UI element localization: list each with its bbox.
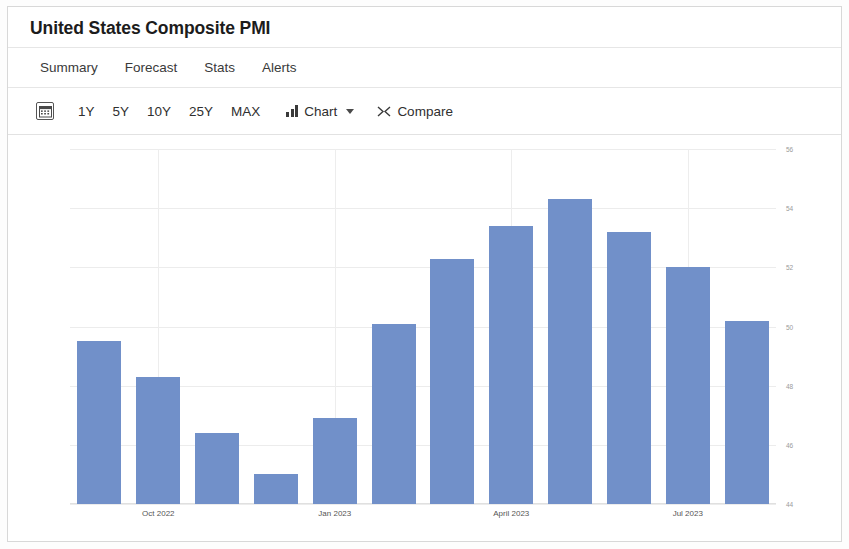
chart-bar[interactable] xyxy=(195,433,239,504)
y-axis-tick-label: 48 xyxy=(786,382,793,389)
compare-label: Compare xyxy=(397,104,453,119)
chart-bar[interactable] xyxy=(254,474,298,504)
chart-bar[interactable] xyxy=(607,232,651,504)
chart-bar[interactable] xyxy=(372,324,416,505)
chart-type-label: Chart xyxy=(304,104,337,119)
y-axis-tick-label: 46 xyxy=(786,441,793,448)
x-axis-tick-label: Jul 2023 xyxy=(673,509,703,518)
gridline-horizontal xyxy=(70,504,776,505)
y-axis-tick-label: 52 xyxy=(786,264,793,271)
pmi-card: United States Composite PMI Summary Fore… xyxy=(7,6,842,542)
x-axis-tick-label: Jan 2023 xyxy=(318,509,351,518)
x-axis-tick-label: Oct 2022 xyxy=(142,509,174,518)
chart-bar[interactable] xyxy=(313,418,357,504)
tab-bar: Summary Forecast Stats Alerts xyxy=(8,48,841,88)
chart-bar[interactable] xyxy=(430,259,474,505)
calendar-icon[interactable] xyxy=(36,102,54,120)
chevron-down-icon xyxy=(346,109,354,114)
y-axis-tick-label: 54 xyxy=(786,205,793,212)
tab-summary[interactable]: Summary xyxy=(39,58,99,77)
y-axis-tick-label: 56 xyxy=(786,146,793,153)
tab-alerts[interactable]: Alerts xyxy=(261,58,298,77)
range-button-10y[interactable]: 10Y xyxy=(138,101,180,122)
chart-type-dropdown[interactable]: Chart xyxy=(280,101,360,122)
range-button-5y[interactable]: 5Y xyxy=(104,101,139,122)
bar-chart-icon xyxy=(286,105,298,117)
chart-bar[interactable] xyxy=(548,199,592,504)
chart-bar[interactable] xyxy=(489,226,533,504)
gridline-horizontal xyxy=(70,149,776,150)
gridline-horizontal xyxy=(70,208,776,209)
y-axis-labels: 56545250484644 xyxy=(786,149,826,504)
x-axis-tick-label: April 2023 xyxy=(493,509,529,518)
card-header: United States Composite PMI xyxy=(8,7,841,48)
chart-toolbar: 1Y 5Y 10Y 25Y MAX Chart Compare xyxy=(8,88,841,135)
tab-forecast[interactable]: Forecast xyxy=(124,58,179,77)
range-button-25y[interactable]: 25Y xyxy=(180,101,222,122)
compare-button[interactable]: Compare xyxy=(371,101,459,122)
chart-area: 56545250484644 Oct 2022Jan 2023April 202… xyxy=(8,135,841,540)
plot-canvas[interactable] xyxy=(70,149,776,504)
chart-bar[interactable] xyxy=(136,377,180,504)
range-button-max[interactable]: MAX xyxy=(222,101,269,122)
screenshot-root: United States Composite PMI Summary Fore… xyxy=(0,0,849,549)
range-button-1y[interactable]: 1Y xyxy=(69,101,104,122)
page-title: United States Composite PMI xyxy=(30,18,841,39)
y-axis-tick-label: 44 xyxy=(786,501,793,508)
x-axis-labels: Oct 2022Jan 2023April 2023Jul 2023 xyxy=(70,509,776,529)
chart-bar[interactable] xyxy=(666,267,710,504)
tab-stats[interactable]: Stats xyxy=(203,58,236,77)
shuffle-icon xyxy=(377,105,391,118)
y-axis-tick-label: 50 xyxy=(786,323,793,330)
chart-bar[interactable] xyxy=(725,321,769,504)
chart-bar[interactable] xyxy=(77,341,121,504)
